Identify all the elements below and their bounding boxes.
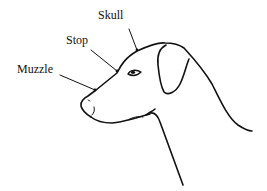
neck-front <box>146 109 183 185</box>
label-stop: Stop <box>66 34 88 46</box>
skull-leader-line <box>129 29 137 50</box>
head-outline <box>81 43 252 131</box>
muzzle-leader-line <box>60 75 95 90</box>
nostril <box>88 100 90 101</box>
dog-head-diagram: Skull Stop Muzzle <box>0 0 267 191</box>
label-skull: Skull <box>98 9 123 21</box>
label-muzzle: Muzzle <box>17 63 53 75</box>
ear <box>158 45 189 94</box>
dog-head-drawing <box>0 0 267 191</box>
nose-detail <box>92 107 94 115</box>
eye-pupil <box>131 71 135 74</box>
stop-leader-line <box>91 50 117 71</box>
jaw-line <box>91 114 150 123</box>
